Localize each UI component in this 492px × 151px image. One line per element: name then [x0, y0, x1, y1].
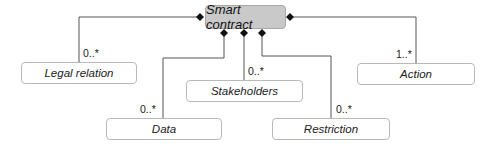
diamond-icon: [286, 13, 294, 21]
data-class: Data: [106, 118, 222, 140]
class-label: Smart contract: [206, 2, 285, 32]
class-label: Legal relation: [44, 67, 113, 79]
multiplicity-label: 1..*: [396, 48, 412, 60]
uml-diagram: Smart contract Legal relation 0..* Data …: [0, 0, 492, 151]
class-label: Data: [152, 123, 176, 135]
stakeholders-class: Stakeholders: [186, 80, 303, 102]
legal-relation-class: Legal relation: [21, 62, 137, 84]
action-class: Action: [357, 63, 475, 85]
class-label: Stakeholders: [211, 85, 278, 97]
multiplicity-label: 0..*: [336, 103, 352, 115]
multiplicity-label: 0..*: [83, 47, 99, 59]
multiplicity-label: 0..*: [248, 65, 264, 77]
class-label: Action: [400, 68, 432, 80]
diamond-icon: [196, 13, 204, 21]
class-label: Restriction: [304, 123, 358, 135]
multiplicity-label: 0..*: [140, 103, 156, 115]
restriction-class: Restriction: [272, 118, 390, 140]
smart-contract-class: Smart contract: [205, 5, 286, 29]
